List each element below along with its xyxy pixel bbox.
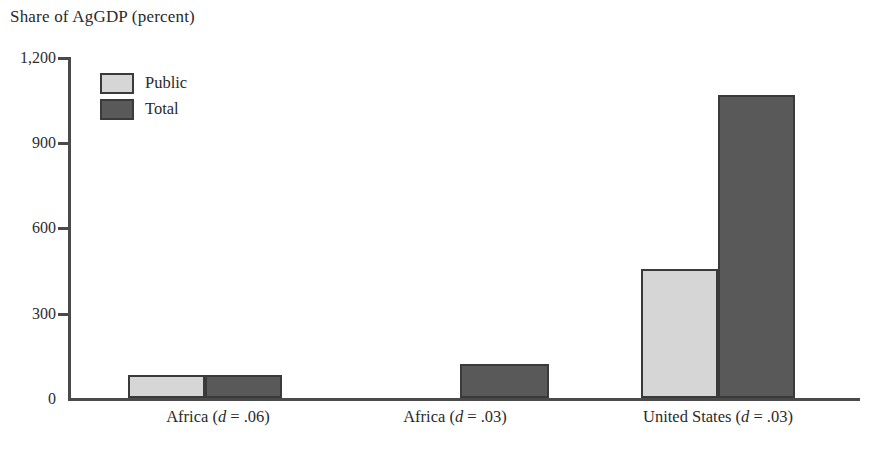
legend-label-public: Public [145,73,187,93]
group-label-2-prefix: Africa ( [403,407,455,426]
group-label-2-suffix: = .03) [463,407,507,426]
y-tick-label-600: 600 [0,219,56,237]
bar-united-states-03-public [641,269,718,398]
y-tick-label-300: 300 [0,305,56,323]
x-axis-group-label-3: United States (d = .03) [598,407,838,427]
chart-title: Share of AgGDP (percent) [10,7,195,27]
x-axis-group-label-2: Africa (d = .03) [355,407,555,427]
y-tick-label-1200: 1,200 [0,49,56,67]
legend-item-total: Total [100,96,187,122]
bar-chart-figure: Share of AgGDP (percent) 1,200 900 600 3… [0,0,869,452]
group-label-1-italic: d [218,407,226,426]
group-label-3-suffix: = .03) [749,407,793,426]
legend-swatch-public-icon [100,73,134,94]
group-label-3-prefix: United States ( [643,407,741,426]
y-tick-label-900: 900 [0,134,56,152]
group-label-2-italic: d [455,407,463,426]
chart-legend: Public Total [100,70,187,122]
x-axis-group-label-1: Africa (d = .06) [118,407,318,427]
group-label-1-prefix: Africa ( [166,407,218,426]
x-axis-line [68,398,860,401]
legend-label-total: Total [145,99,179,119]
bar-africa-06-public [128,375,205,398]
legend-swatch-total-icon [100,99,134,120]
bar-africa-06-total [205,375,282,398]
y-tick-label-0: 0 [0,390,56,408]
group-label-1-suffix: = .06) [226,407,270,426]
legend-item-public: Public [100,70,187,96]
bar-united-states-03-total [718,95,795,398]
bar-africa-03-total [460,364,549,398]
